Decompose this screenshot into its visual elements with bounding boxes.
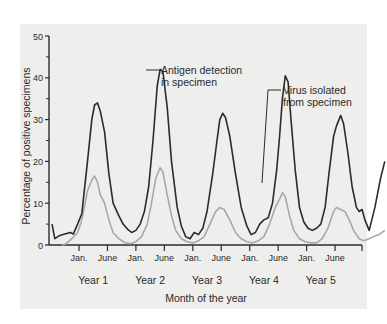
x-axis: Jan.JuneJan.JuneJan.JuneJan.JuneJan.June <box>49 245 362 263</box>
virus-annotation-line2: from specimen <box>283 96 352 108</box>
y-tick-label: 40 <box>33 73 43 83</box>
year-label: Year 4 <box>249 274 279 286</box>
line-chart: 01020304050 Jan.JuneJan.JuneJan.JuneJan.… <box>0 0 387 324</box>
x-tick-label: Jan. <box>184 253 201 263</box>
year-labels: Year 1Year 2Year 3Year 4Year 5 <box>78 274 336 286</box>
y-axis: 01020304050 <box>33 32 49 251</box>
year-label: Year 3 <box>192 274 222 286</box>
y-tick-label: 0 <box>38 241 43 251</box>
year-label: Year 1 <box>78 274 108 286</box>
x-tick-label: Jan. <box>241 253 258 263</box>
antigen-annotation-line1: Antigen detection <box>161 64 242 76</box>
y-tick-label: 30 <box>33 115 43 125</box>
y-tick-label: 50 <box>33 32 43 42</box>
virus-annotation-line1: Virus isolated <box>283 84 346 96</box>
year-label: Year 2 <box>135 274 165 286</box>
x-tick-label: Jan. <box>127 253 144 263</box>
x-tick-label: Jan. <box>298 253 315 263</box>
y-tick-label: 20 <box>33 157 43 167</box>
x-axis-title: Month of the year <box>165 292 247 304</box>
x-tick-label: June <box>211 253 231 263</box>
x-tick-label: June <box>155 253 175 263</box>
year-label: Year 5 <box>306 274 336 286</box>
x-tick-label: June <box>98 253 118 263</box>
virus-annotation-leader <box>262 90 281 183</box>
x-tick-label: Jan. <box>70 253 87 263</box>
y-tick-label: 10 <box>33 199 43 209</box>
y-axis-title: Percentage of positive specimens <box>20 67 32 224</box>
x-tick-label: June <box>325 253 345 263</box>
antigen-annotation-line2: in specimen <box>161 76 217 88</box>
x-tick-label: June <box>268 253 288 263</box>
